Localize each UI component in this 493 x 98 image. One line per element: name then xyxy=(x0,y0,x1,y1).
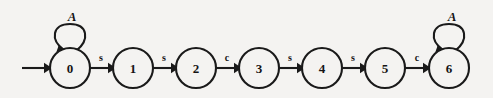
fsm-diagram: s s c s s c A xyxy=(0,0,493,98)
state-label-0: 0 xyxy=(67,61,74,76)
state-node-2[interactable]: 2 xyxy=(176,48,216,88)
transition-label-1-2: s xyxy=(162,52,166,63)
transition-label-5-6: c xyxy=(415,52,420,63)
self-loop-state-6: A xyxy=(434,9,464,53)
state-label-2: 2 xyxy=(193,61,200,76)
state-label-1: 1 xyxy=(130,61,137,76)
state-label-6: 6 xyxy=(446,61,453,76)
state-node-5[interactable]: 5 xyxy=(365,48,405,88)
state-label-3: 3 xyxy=(256,61,263,76)
transition-label-3-4: s xyxy=(288,52,292,63)
self-loop-state-0: A xyxy=(55,9,85,53)
transition-label-2-3: c xyxy=(225,52,230,63)
transition-label-4-5: s xyxy=(351,52,355,63)
state-node-4[interactable]: 4 xyxy=(302,48,342,88)
fsm-svg: s s c s s c A xyxy=(0,0,493,98)
start-arrow xyxy=(22,63,52,73)
self-loop-label-state-6: A xyxy=(447,9,457,24)
state-node-3[interactable]: 3 xyxy=(239,48,279,88)
state-node-1[interactable]: 1 xyxy=(113,48,153,88)
state-node-6[interactable]: 6 xyxy=(429,48,469,88)
state-label-4: 4 xyxy=(319,61,326,76)
state-node-0[interactable]: 0 xyxy=(50,48,90,88)
transition-label-0-1: s xyxy=(99,52,103,63)
transition-5-6: c xyxy=(405,52,431,74)
state-label-5: 5 xyxy=(382,61,389,76)
self-loop-label-state-0: A xyxy=(67,9,77,24)
